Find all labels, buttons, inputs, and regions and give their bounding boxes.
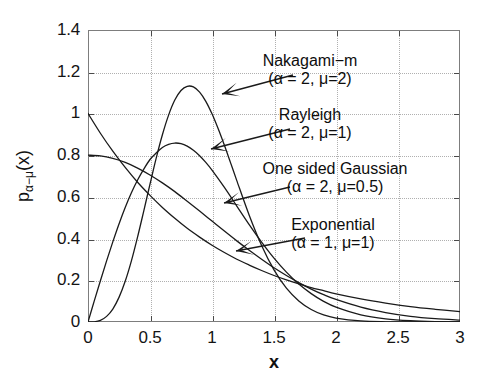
y-axis-tick (89, 198, 94, 199)
y-axis-tick (89, 156, 94, 157)
x-axis-tick (337, 316, 338, 321)
x-axis-tick (151, 31, 152, 36)
annotation-title-nakagami-m: Nakagami−m (263, 52, 358, 70)
annotation-params-exponential: (α = 1, μ=1) (291, 234, 375, 252)
annotation-label-exponential: Exponential(α = 1, μ=1) (291, 216, 375, 252)
y-axis-tick (89, 114, 94, 115)
x-axis-tick (213, 31, 214, 36)
annotation-params-one-sided-gaussian: (α = 2, μ=0.5) (263, 178, 408, 196)
y-axis-tick (454, 281, 459, 282)
gridline-horizontal (89, 198, 459, 199)
x-tick-label: 2 (331, 328, 340, 348)
annotation-title-exponential: Exponential (291, 216, 375, 234)
x-axis-tick (151, 316, 152, 321)
y-axis-tick (89, 240, 94, 241)
y-axis-tick (454, 114, 459, 115)
y-axis-tick (454, 240, 459, 241)
y-axis-label: pα−μ(x) (13, 150, 36, 202)
x-axis-tick (399, 31, 400, 36)
annotation-params-nakagami-m: (α = 2, μ=2) (263, 70, 358, 88)
y-tick-label: 0.6 (57, 187, 80, 207)
gridline-horizontal (89, 240, 459, 241)
y-axis-label-base: p (13, 192, 33, 202)
y-axis-tick (89, 73, 94, 74)
x-axis-tick (399, 316, 400, 321)
y-tick-label: 1.4 (57, 20, 80, 40)
annotation-params-rayleigh: (α = 2, μ=1) (268, 124, 351, 142)
annotation-label-nakagami-m: Nakagami−m(α = 2, μ=2) (263, 52, 358, 88)
x-tick-label: 1.5 (262, 328, 285, 348)
gridline-horizontal (89, 156, 459, 157)
y-axis-tick (454, 198, 459, 199)
annotation-label-one-sided-gaussian: One sided Gaussian(α = 2, μ=0.5) (263, 160, 408, 196)
x-axis-tick (275, 31, 276, 36)
x-axis-tick (213, 316, 214, 321)
gridline-vertical (213, 31, 214, 321)
x-tick-label: 0 (83, 328, 92, 348)
y-tick-label: 0 (71, 312, 80, 332)
y-axis-tick (89, 281, 94, 282)
x-tick-label: 2.5 (386, 328, 409, 348)
chart-figure: 00.511.522.5300.20.40.60.811.21.4 Nakaga… (0, 0, 487, 380)
y-axis-tick (454, 156, 459, 157)
x-axis-tick (275, 316, 276, 321)
x-tick-label: 3 (455, 328, 464, 348)
x-tick-label: 0.5 (138, 328, 161, 348)
annotation-label-rayleigh: Rayleigh(α = 2, μ=1) (268, 106, 351, 142)
y-tick-label: 0.4 (57, 229, 80, 249)
x-axis-tick (337, 31, 338, 36)
y-axis-label-subscript: α−μ (22, 171, 36, 192)
y-tick-label: 0.2 (57, 270, 80, 290)
y-tick-label: 1 (71, 103, 80, 123)
y-tick-label: 1.2 (57, 62, 80, 82)
x-tick-label: 1 (207, 328, 216, 348)
annotation-title-one-sided-gaussian: One sided Gaussian (263, 160, 408, 178)
y-axis-label-tail: (x) (13, 150, 33, 171)
y-axis-tick (454, 73, 459, 74)
annotation-title-rayleigh: Rayleigh (268, 106, 351, 124)
gridline-vertical (151, 31, 152, 321)
y-tick-label: 0.8 (57, 145, 80, 165)
x-axis-label: x (269, 352, 279, 373)
gridline-horizontal (89, 281, 459, 282)
